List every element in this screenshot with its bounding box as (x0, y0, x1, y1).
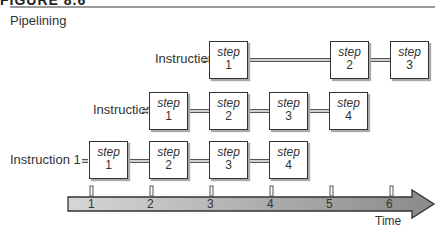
time-axis-label: Time (375, 214, 401, 228)
tick-1: 1 (88, 197, 95, 211)
tick-2: 2 (147, 197, 154, 211)
tick-3: 3 (207, 197, 214, 211)
time-arrow (0, 0, 443, 235)
tick-4: 4 (267, 197, 274, 211)
tick-5: 5 (326, 197, 333, 211)
tick-6: 6 (386, 197, 393, 211)
